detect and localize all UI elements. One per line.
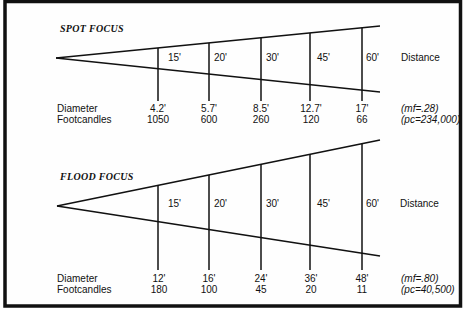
flood-diameter-label: Diameter [57,273,98,284]
flood-distance-30: 30' [266,198,279,209]
spot-diameter-20: 5.7' [201,103,217,114]
flood-distance-15: 15' [168,198,181,209]
flood-distance-60: 60' [366,198,379,209]
spot-diameter-15: 4.2' [150,103,166,114]
spot-distance-45: 45' [317,52,330,63]
flood-footcandles-label: Footcandles [57,284,111,295]
spot-footcandles-60: 66 [356,114,368,125]
spot-distance-15: 15' [168,52,181,63]
spot-title: SPOT FOCUS [60,23,124,34]
flood-footcandles-15: 180 [151,284,168,295]
spot-diameter-60: 17' [355,103,368,114]
flood-mf-note: (mf=.80) [401,273,439,284]
spot-footcandles-45: 120 [303,114,320,125]
spot-footcandles-30: 260 [253,114,270,125]
flood-footcandles-60: 11 [357,284,368,295]
flood-footcandles-45: 20 [305,284,317,295]
flood-distance-20: 20' [214,198,227,209]
spot-footcandles-label: Footcandles [57,114,111,125]
spot-distance-60: 60' [366,52,379,63]
spot-diameter-45: 12.7' [300,103,321,114]
spot-footcandles-20: 600 [201,114,218,125]
flood-pc-note: (pc=40,500) [401,284,455,295]
beam-diagram: SPOT FOCUS 15' 20' 30' 45' 60' Distance … [0,0,466,315]
spot-distance-20: 20' [214,52,227,63]
flood-distance-label: Distance [400,198,439,209]
spot-mf-note: (mf=.28) [401,103,439,114]
diagram-frame [5,2,461,307]
spot-pc-note: (pc=234,000) [401,114,460,125]
flood-diameter-30: 24' [254,273,267,284]
spot-distance-30: 30' [266,52,279,63]
spot-diameter-30: 8.5' [253,103,269,114]
flood-distance-45: 45' [317,198,330,209]
flood-title: FLOOD FOCUS [59,171,134,182]
flood-diameter-45: 36' [304,273,317,284]
flood-footcandles-30: 45 [255,284,267,295]
spot-distance-label: Distance [401,52,440,63]
flood-diameter-15: 12' [152,273,165,284]
flood-diameter-60: 48' [355,273,368,284]
spot-diameter-label: Diameter [57,103,98,114]
spot-footcandles-15: 1050 [147,114,170,125]
flood-footcandles-20: 100 [201,284,218,295]
flood-diameter-20: 16' [202,273,215,284]
